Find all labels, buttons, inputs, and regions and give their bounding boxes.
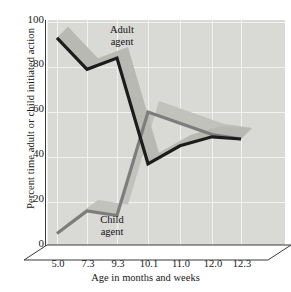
plot-area [47, 20, 285, 245]
x-tick-label-6: 12.3 [225, 258, 259, 269]
y-tick-label-60: 60 [18, 102, 44, 114]
series-label-child-agent: Child agent [86, 214, 138, 237]
adult-agent-ribbon [57, 27, 252, 164]
x-tick-label-4: 11.0 [164, 258, 198, 269]
series-label-adult-line1: Adult [96, 24, 148, 36]
x-tick-label-1: 7.3 [71, 258, 105, 269]
y-tick-label-80: 80 [18, 57, 44, 69]
x-axis-ticks: 5.0 7.3 9.3 10.1 11.0 12.0 12.3 [0, 258, 291, 272]
x-tick-label-2: 9.3 [101, 258, 135, 269]
series-label-child-line2: agent [86, 226, 138, 238]
series-plot [47, 20, 285, 245]
y-tick-label-20: 20 [18, 192, 44, 204]
y-tick-label-40: 40 [18, 147, 44, 159]
series-label-adult-line2: agent [96, 36, 148, 48]
x-tick-label-3: 10.1 [132, 258, 166, 269]
y-tick-label-100: 100 [18, 13, 44, 25]
x-tick-label-0: 5.0 [41, 258, 75, 269]
chart-figure: Percent time adult or child initiated ac… [0, 0, 291, 292]
x-axis-label: Age in months and weeks [0, 272, 291, 283]
y-axis-line [45, 20, 46, 246]
series-label-adult-agent: Adult agent [96, 24, 148, 47]
series-label-child-line1: Child [86, 214, 138, 226]
